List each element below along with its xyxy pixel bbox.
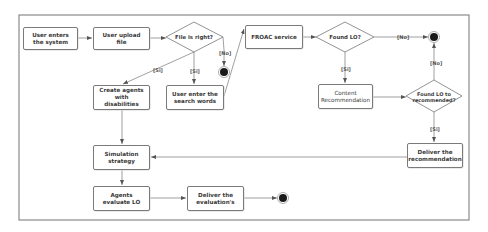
action-simulation-strategy: Simulation strategy [93,145,150,170]
guard-rec-no: [No] [430,60,442,66]
action-agents-evaluate: Agents evaluate LO [93,186,150,211]
action-deliver-recommendation: Deliver the recommendation [407,143,463,168]
action-froac-service: FROAC service [245,25,303,49]
activity-diagram: User enters the system User upload file … [0,0,488,232]
guard-found-yes: [Si] [341,66,351,72]
diagram-frame [19,15,469,220]
guard-rec-yes: [Si] [430,126,440,132]
end-state-icon [429,32,440,43]
decision-label-found-lo-rec: Found LO to recommended? [412,88,456,105]
end-state-icon [278,193,289,204]
guard-found-no: [No] [397,34,409,40]
end-state-icon [219,67,230,78]
decision-label-found-lo: Found LO? [321,30,369,44]
action-enter-system: User enters the system [23,27,78,50]
action-search-words: User enter the search words [166,85,224,110]
guard-file-no: [No] [219,50,231,56]
guard-file-yes-search: [Si] [190,68,200,74]
decision-label-file-right: File is right? [170,30,218,44]
action-content-recommendation: Content Recommendation [318,84,373,109]
action-deliver-evaluation: Deliver the evaluation's [187,186,244,211]
action-upload-file: User upload file [93,27,150,50]
guard-file-yes-agents: [Si] [153,67,163,73]
action-create-agents: Create agents with disabilities [93,85,150,110]
